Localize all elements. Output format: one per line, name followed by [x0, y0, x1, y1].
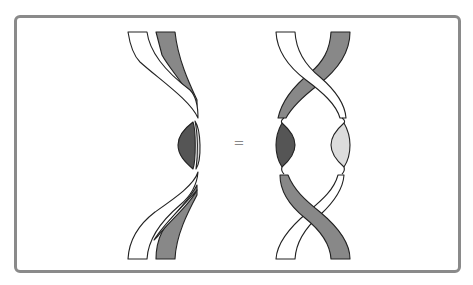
left-diagram [128, 32, 200, 259]
right-light-lens [331, 123, 350, 167]
right-dark-lens [276, 123, 295, 167]
equals-sign: = [232, 136, 246, 150]
right-diagram [276, 32, 350, 259]
left-dark-lens [178, 122, 195, 169]
